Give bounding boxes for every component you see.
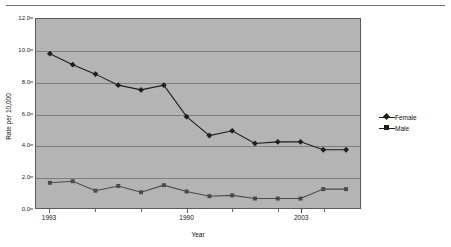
y-tick-mark — [30, 49, 33, 50]
x-tick-mark-minor — [232, 209, 233, 212]
y-tick-label: 8.0 — [22, 79, 30, 85]
legend-label-female: Female — [395, 113, 417, 122]
data-point-female[interactable] — [343, 147, 349, 153]
x-tick-mark — [301, 209, 302, 213]
legend-marker-diamond-icon — [379, 113, 395, 122]
y-tick-label: 6.0 — [22, 111, 30, 117]
legend-item-female[interactable]: Female — [379, 112, 449, 122]
y-tick-mark — [30, 113, 33, 114]
data-point-female[interactable] — [115, 82, 121, 88]
data-point-female[interactable] — [229, 128, 235, 134]
y-axis-title: Rate per 10,000 — [5, 67, 12, 167]
x-axis: 199319902003 — [35, 209, 361, 231]
data-point-male[interactable] — [207, 194, 211, 198]
data-point-female[interactable] — [70, 62, 76, 68]
data-point-female[interactable] — [93, 71, 99, 77]
data-point-male[interactable] — [185, 189, 189, 193]
plot-area — [35, 18, 361, 209]
data-point-female[interactable] — [47, 51, 53, 57]
y-tick-label: 12.0 — [18, 15, 30, 21]
x-tick-mark-minor — [278, 209, 279, 212]
data-point-male[interactable] — [48, 181, 52, 185]
x-tick-mark-minor — [95, 209, 96, 212]
y-tick-label: 2.0 — [22, 174, 30, 180]
legend-label-male: Male — [395, 124, 409, 133]
data-point-male[interactable] — [344, 187, 348, 191]
data-point-male[interactable] — [93, 189, 97, 193]
y-tick-label: 0.0 — [22, 206, 30, 212]
x-tick-label: 2003 — [294, 214, 308, 221]
y-tick-mark — [30, 81, 33, 82]
data-point-female[interactable] — [275, 139, 281, 145]
x-tick-mark-minor — [49, 209, 50, 212]
y-tick-label: 10.0 — [18, 47, 30, 53]
data-point-male[interactable] — [116, 184, 120, 188]
data-point-male[interactable] — [230, 193, 234, 197]
data-point-male[interactable] — [253, 197, 257, 201]
x-tick-mark-minor — [187, 209, 188, 212]
y-tick-mark — [30, 145, 33, 146]
x-axis-title: Year — [35, 231, 361, 238]
x-tick-label: 1990 — [179, 214, 193, 221]
series-line-female — [50, 54, 346, 150]
plot-inner — [36, 19, 360, 208]
x-tick-mark-minor — [324, 209, 325, 212]
data-point-male[interactable] — [276, 197, 280, 201]
y-tick-label: 4.0 — [22, 142, 30, 148]
data-point-female[interactable] — [252, 140, 258, 146]
data-point-female[interactable] — [138, 87, 144, 93]
data-point-male[interactable] — [299, 197, 303, 201]
chart-figure: 0.02.04.06.08.010.012.0 Rate per 10,000 … — [0, 0, 451, 247]
chart-legend: Female Male — [379, 112, 449, 134]
data-point-male[interactable] — [321, 187, 325, 191]
data-point-female[interactable] — [298, 139, 304, 145]
x-tick-mark-minor — [141, 209, 142, 212]
data-point-male[interactable] — [139, 190, 143, 194]
y-tick-mark — [30, 209, 33, 210]
legend-item-male[interactable]: Male — [379, 123, 449, 133]
data-point-female[interactable] — [320, 147, 326, 153]
data-point-male[interactable] — [71, 179, 75, 183]
series-layer — [36, 19, 360, 208]
data-point-male[interactable] — [162, 183, 166, 187]
legend-marker-square-icon — [379, 124, 395, 133]
top-horizontal-rule — [6, 5, 445, 6]
y-tick-mark — [30, 177, 33, 178]
y-tick-mark — [30, 18, 33, 19]
x-tick-label: 1993 — [42, 214, 56, 221]
